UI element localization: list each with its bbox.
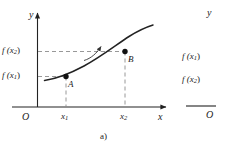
y-tick-fx1-prefix: f ( — [2, 70, 10, 80]
y-tick-label-fx2: f (x2) — [2, 46, 20, 56]
figure-container: y x O f (x2) f (x1) x1 x2 A B y f (x1) f… — [0, 0, 230, 147]
right-y-tick-fx1-prefix: f ( — [182, 51, 190, 61]
function-curve — [45, 25, 154, 81]
y-tick-label-fx1: f (x1) — [2, 71, 20, 81]
x-tick-x1-sub: 1 — [65, 114, 68, 121]
point-b-marker — [122, 49, 127, 54]
right-y-tick-label-fx1: f (x1) — [182, 52, 200, 62]
figure-graphics — [0, 0, 230, 147]
x-axis-label: x — [158, 112, 162, 122]
y-tick-fx1-suffix: ) — [17, 70, 20, 80]
x-tick-label-x1: x1 — [61, 112, 68, 122]
origin-label: O — [22, 112, 29, 122]
point-a-label: A — [68, 80, 74, 89]
point-b-label: B — [128, 55, 134, 64]
increase-direction-arrow — [84, 47, 101, 61]
right-y-tick-label-fx2: f (x2) — [182, 75, 200, 85]
x-tick-x2-sub: 2 — [124, 114, 127, 121]
right-y-tick-fx2-prefix: f ( — [182, 74, 190, 84]
figure-caption: a) — [100, 131, 107, 141]
x-tick-label-x2: x2 — [120, 112, 127, 122]
y-axis-label: y — [29, 10, 33, 20]
y-tick-fx2-prefix: f ( — [2, 45, 10, 55]
right-origin-label: O — [206, 110, 213, 120]
right-y-axis-label: y — [207, 8, 211, 18]
right-y-tick-fx1-suffix: ) — [197, 51, 200, 61]
right-y-tick-fx2-suffix: ) — [197, 74, 200, 84]
y-tick-fx2-suffix: ) — [17, 45, 20, 55]
